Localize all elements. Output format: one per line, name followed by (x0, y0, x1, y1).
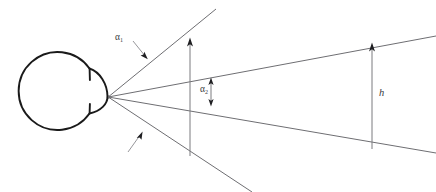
alpha2-label: α2 (200, 85, 208, 95)
alpha2-subscript: 2 (205, 89, 208, 95)
cornea-icon (90, 69, 108, 114)
alpha2-measure-group (208, 78, 213, 107)
eye-group (19, 52, 110, 130)
figure-canvas (0, 0, 436, 192)
alpha1-label: α1 (115, 33, 123, 43)
far-object-measure-group (369, 43, 375, 150)
alpha1-leader-upper-arrowhead-icon (141, 52, 148, 60)
object-height-label: h (379, 88, 384, 99)
ray-inner-upper (108, 36, 436, 97)
visual-angle-figure: α1 α2 h (0, 0, 436, 192)
ray-outer-lower (108, 97, 252, 192)
ray-inner-lower (108, 97, 436, 153)
alpha1-leader-group (128, 41, 148, 152)
near-object-measure-group (187, 38, 193, 157)
alpha1-subscript: 1 (120, 37, 123, 43)
ray-pencil-group (108, 9, 436, 192)
alpha1-leader-upper-line (133, 41, 146, 57)
eye-globe-icon (19, 52, 90, 130)
